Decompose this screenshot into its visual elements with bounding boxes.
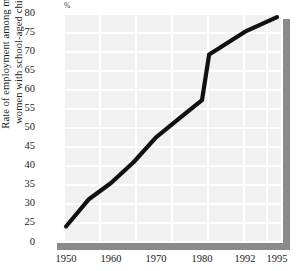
x-tick-label: 1970 bbox=[136, 253, 176, 264]
x-tick-label: 1960 bbox=[91, 253, 131, 264]
y-tick-label: 65 bbox=[9, 64, 35, 75]
y-tick-label: 40 bbox=[9, 159, 35, 170]
y-axis-title-line-2: women with school-aged children bbox=[12, 0, 25, 157]
y-tick-label: 70 bbox=[9, 45, 35, 56]
data-series-line bbox=[63, 13, 283, 243]
y-axis-title: Rate of employment among married women w… bbox=[0, 0, 29, 157]
percent-unit-label: % bbox=[64, 1, 70, 10]
y-tick-label: 35 bbox=[9, 178, 35, 189]
y-tick-label: 60 bbox=[9, 83, 35, 94]
x-tick-label: 1980 bbox=[182, 253, 222, 264]
y-tick-label: 80 bbox=[9, 7, 35, 18]
y-tick-label: 45 bbox=[9, 140, 35, 151]
line-chart: Rate of employment among married women w… bbox=[0, 0, 297, 271]
y-tick-label: 75 bbox=[9, 26, 35, 37]
y-tick-label: 25 bbox=[9, 216, 35, 227]
y-axis-title-line-1: Rate of employment among married bbox=[0, 0, 12, 157]
y-tick-label: 30 bbox=[9, 197, 35, 208]
x-tick-label: 1995 bbox=[257, 253, 297, 264]
y-tick-label: 55 bbox=[9, 102, 35, 113]
x-tick-label: 1950 bbox=[46, 253, 86, 264]
y-tick-label-zero: 0 bbox=[9, 236, 35, 247]
y-tick-label: 50 bbox=[9, 121, 35, 132]
plot-shadow-bottom bbox=[57, 243, 290, 250]
plot-shadow-right bbox=[283, 19, 290, 249]
